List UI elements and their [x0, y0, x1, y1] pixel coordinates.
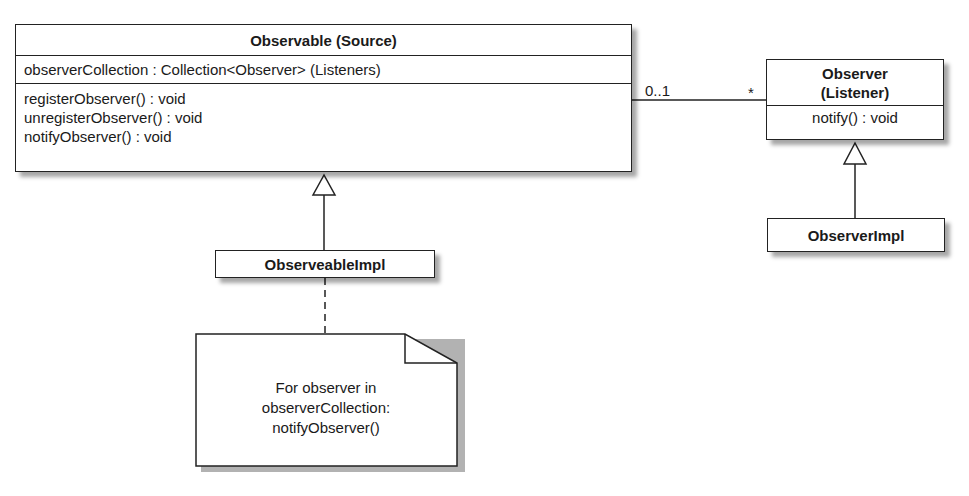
- class-title-line: (Listener): [767, 83, 943, 102]
- operation: notify() : void: [773, 108, 937, 127]
- class-title: Observer (Listener): [767, 60, 943, 105]
- generalization-arrow-icon: [313, 175, 335, 195]
- note-line: observerCollection:: [195, 398, 457, 418]
- generalization-arrow-icon: [844, 143, 866, 164]
- class-title: ObserverImpl: [768, 219, 944, 252]
- operations-section: registerObserver() : void unregisterObse…: [16, 83, 631, 151]
- operation: registerObserver() : void: [24, 89, 623, 108]
- attributes-section: observerCollection : Collection<Observer…: [16, 55, 631, 83]
- note[interactable]: For observer in observerCollection: noti…: [195, 333, 458, 466]
- multiplicity-source: 0..1: [645, 82, 670, 99]
- class-title: Observable (Source): [16, 25, 631, 55]
- operation: unregisterObserver() : void: [24, 108, 623, 127]
- class-title-line: Observer: [767, 64, 943, 83]
- class-observable[interactable]: Observable (Source) observerCollection :…: [15, 24, 632, 172]
- class-observer-impl[interactable]: ObserverImpl: [767, 218, 945, 252]
- operation: notifyObserver() : void: [24, 127, 623, 146]
- class-observeable-impl[interactable]: ObserveableImpl: [215, 250, 435, 278]
- class-observer[interactable]: Observer (Listener) notify() : void: [766, 59, 944, 140]
- note-line: For observer in: [195, 378, 457, 398]
- class-title: ObserveableImpl: [216, 251, 434, 278]
- note-text: For observer in observerCollection: noti…: [195, 378, 457, 438]
- operations-section: notify() : void: [767, 105, 943, 129]
- multiplicity-target: *: [748, 84, 754, 101]
- note-line: notifyObserver(): [195, 418, 457, 438]
- attribute: observerCollection : Collection<Observer…: [24, 60, 623, 79]
